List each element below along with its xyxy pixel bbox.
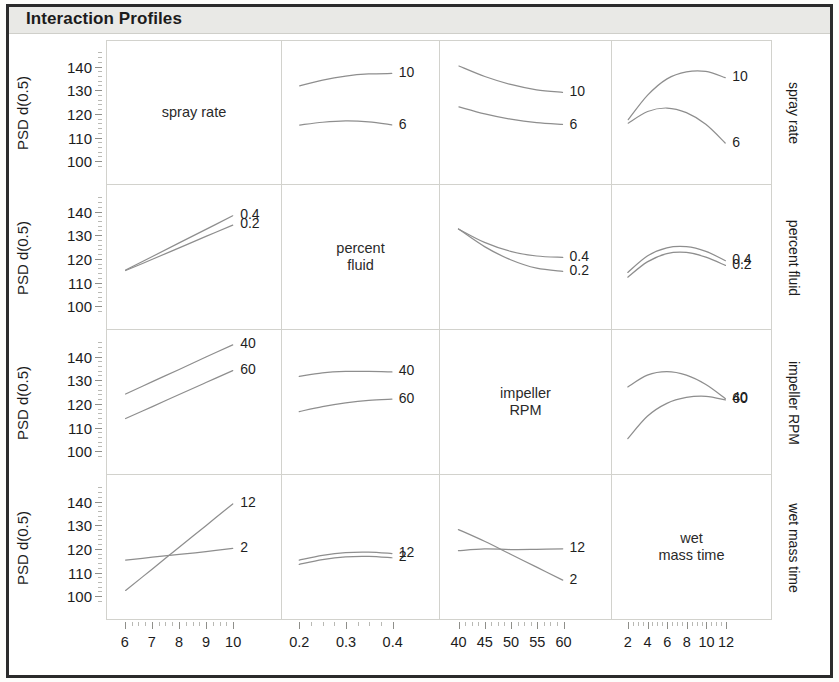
y-tick-label: 140 — [67, 58, 92, 75]
profile-panel-r2-c1[interactable]: 4060 — [282, 330, 440, 475]
y-minor-tick — [98, 413, 102, 414]
profile-panel-r0-c2[interactable]: 106 — [440, 40, 612, 185]
x-minor-tick — [138, 622, 139, 626]
y-minor-tick — [98, 446, 102, 447]
profile-panel-r1-c0[interactable]: 0.40.2 — [106, 185, 282, 330]
profile-panel-r3-c0[interactable]: 122 — [106, 475, 282, 620]
x-minor-tick — [518, 622, 519, 626]
y-axis-row-3: PSD d(0.5)140130120110100 — [0, 475, 106, 620]
profile-panel-r1-c2[interactable]: 0.40.2 — [440, 185, 612, 330]
x-tick-label: 12 — [718, 634, 734, 650]
x-minor-tick — [498, 622, 499, 626]
x-minor-tick — [716, 622, 717, 626]
profile-panel-r0-c3[interactable]: 106 — [612, 40, 772, 185]
y-minor-tick — [98, 409, 102, 410]
level-label-0.2: 0.2 — [240, 215, 259, 231]
diagonal-factor-label: impeller RPM — [440, 330, 611, 474]
y-minor-tick — [98, 156, 102, 157]
y-minor-tick — [98, 601, 102, 602]
x-tick-label: 0.4 — [383, 634, 403, 650]
profile-panel-r2-c0[interactable]: 4060 — [106, 330, 282, 475]
y-tick-label: 120 — [67, 540, 92, 557]
x-minor-tick — [682, 622, 683, 626]
y-minor-tick — [98, 71, 102, 72]
curve-level-0.4 — [126, 216, 233, 270]
y-minor-tick — [98, 352, 102, 353]
y-minor-tick — [98, 119, 102, 120]
x-minor-tick — [199, 622, 200, 626]
x-minor-tick — [159, 622, 160, 626]
x-minor-tick — [381, 622, 382, 626]
level-label-6: 6 — [399, 116, 407, 132]
x-tick-label: 6 — [121, 634, 129, 650]
y-tick-label: 140 — [67, 348, 92, 365]
diagonal-panel-percent-fluid[interactable]: percent fluid — [282, 185, 440, 330]
x-minor-tick — [657, 622, 658, 626]
y-tick-mark — [95, 161, 102, 162]
diagonal-panel-wet-mass-time[interactable]: wet mass time — [612, 475, 772, 620]
profile-panel-r3-c1[interactable]: 122 — [282, 475, 440, 620]
profile-curves — [282, 330, 439, 474]
y-tick-mark — [95, 67, 102, 68]
y-minor-tick — [98, 492, 102, 493]
y-minor-tick — [98, 591, 102, 592]
x-tick-label: 10 — [698, 634, 714, 650]
profile-panel-r2-c3[interactable]: 4060 — [612, 330, 772, 475]
y-minor-tick — [98, 52, 102, 53]
profile-panel-r1-c3[interactable]: 0.40.2 — [612, 185, 772, 330]
x-minor-tick — [472, 622, 473, 626]
y-tick-mark — [95, 212, 102, 213]
y-minor-tick — [98, 202, 102, 203]
y-minor-tick — [98, 85, 102, 86]
y-minor-tick — [98, 142, 102, 143]
x-tick-label: 0.3 — [336, 634, 356, 650]
x-tick-mark — [687, 622, 688, 629]
x-tick-mark — [299, 622, 300, 629]
x-minor-tick — [193, 622, 194, 626]
y-minor-tick — [98, 418, 102, 419]
y-minor-tick — [98, 100, 102, 101]
y-minor-tick — [98, 582, 102, 583]
y-minor-tick — [98, 254, 102, 255]
x-tick-mark — [459, 622, 460, 629]
x-minor-tick — [213, 622, 214, 626]
profile-curves — [440, 41, 611, 184]
x-tick-mark — [233, 622, 234, 629]
y-tick-label: 110 — [68, 274, 92, 291]
y-minor-tick — [98, 456, 102, 457]
x-tick-mark — [152, 622, 153, 629]
y-tick-label: 110 — [68, 564, 92, 581]
x-tick-label: 8 — [683, 634, 691, 650]
y-minor-tick — [98, 558, 102, 559]
y-minor-tick — [98, 292, 102, 293]
profile-panel-r0-c1[interactable]: 106 — [282, 40, 440, 185]
diagonal-panel-spray-rate[interactable]: spray rate — [106, 40, 282, 185]
level-label-2: 2 — [399, 548, 407, 564]
x-tick-mark — [628, 622, 629, 629]
y-tick-label: 110 — [68, 419, 92, 436]
y-tick-label: 120 — [67, 105, 92, 122]
x-minor-tick — [721, 622, 722, 626]
y-minor-tick — [98, 371, 102, 372]
y-minor-tick — [98, 385, 102, 386]
y-minor-tick — [98, 366, 102, 367]
profile-panel-r3-c2[interactable]: 122 — [440, 475, 612, 620]
y-minor-tick — [98, 361, 102, 362]
row-factor-title-percent-fluid: percent fluid — [786, 219, 802, 295]
x-minor-tick — [186, 622, 187, 626]
y-minor-tick — [98, 342, 102, 343]
diagonal-panel-impeller-RPM[interactable]: impeller RPM — [440, 330, 612, 475]
y-tick-label: 120 — [67, 250, 92, 267]
x-minor-tick — [172, 622, 173, 626]
level-label-60: 60 — [732, 390, 748, 406]
y-minor-tick — [98, 273, 102, 274]
y-axis-title: PSD d(0.5) — [14, 220, 31, 294]
curve-level-0.4 — [458, 229, 562, 257]
y-minor-tick — [98, 62, 102, 63]
row-factor-title-spray-rate: spray rate — [786, 81, 802, 143]
interaction-profiles-screenshot: Interaction Profiles PSD d(0.5)140130120… — [0, 0, 839, 682]
y-minor-tick — [98, 109, 102, 110]
y-minor-tick — [98, 530, 102, 531]
y-minor-tick — [98, 123, 102, 124]
level-label-10: 10 — [570, 83, 586, 99]
